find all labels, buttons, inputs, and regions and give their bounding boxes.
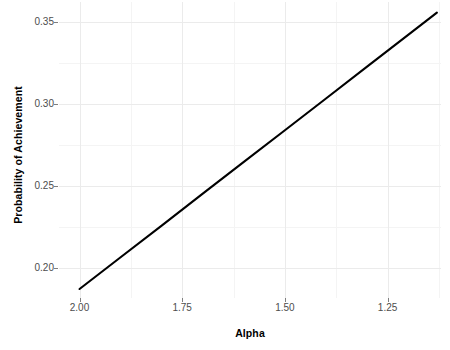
y-axis-tick-label: 0.30	[14, 99, 54, 109]
y-axis-tick-label: 0.35	[14, 17, 54, 27]
x-axis-tick-label: 1.25	[363, 302, 413, 313]
y-axis-tick-label: 0.25	[14, 181, 54, 191]
y-axis-tick-labels: 0.350.300.250.20	[12, 0, 54, 350]
x-axis-tick-label: 2.00	[55, 302, 105, 313]
y-axis-tick-mark	[54, 186, 58, 187]
x-axis-tick-label: 1.75	[157, 302, 207, 313]
x-axis-tick-label: 1.50	[260, 302, 310, 313]
y-axis-tick-mark	[54, 268, 58, 269]
y-axis-tick-mark	[54, 22, 58, 23]
y-axis-tick-mark	[54, 104, 58, 105]
x-axis-title: Alpha	[59, 327, 441, 339]
y-axis-tick-label: 0.20	[14, 263, 54, 273]
x-axis-tick-labels: 2.001.751.501.25	[0, 302, 450, 316]
plot-panel	[59, 2, 441, 298]
data-line-series	[59, 2, 441, 298]
chart-container: Probability of Achievement 0.350.300.250…	[0, 0, 450, 350]
